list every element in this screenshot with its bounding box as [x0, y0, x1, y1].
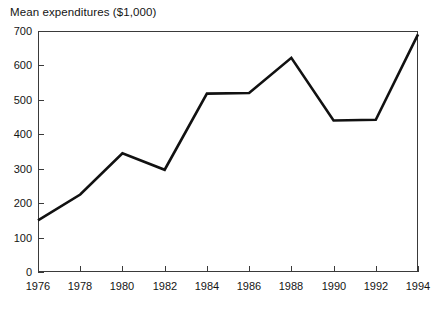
x-axis-tick-label: 1988	[271, 281, 311, 292]
x-axis-tick-label: 1982	[145, 281, 185, 292]
y-axis-tick-label: 600	[2, 60, 32, 71]
y-axis-tick-mark	[38, 272, 44, 273]
chart-axis-title: Mean expenditures ($1,000)	[10, 6, 156, 18]
x-axis-tick-mark	[80, 266, 81, 272]
y-axis-tick-mark	[38, 134, 44, 135]
y-axis-tick-mark	[38, 31, 44, 32]
y-axis-tick-label: 0	[2, 267, 32, 278]
x-axis-tick-mark	[165, 266, 166, 272]
y-axis-tick-mark	[38, 203, 44, 204]
x-axis-tick-mark	[249, 266, 250, 272]
x-axis-tick-label: 1976	[18, 281, 58, 292]
x-axis-tick-mark	[122, 266, 123, 272]
y-axis-tick-label: 500	[2, 95, 32, 106]
y-axis-tick-label: 100	[2, 233, 32, 244]
x-axis-tick-label: 1978	[60, 281, 100, 292]
x-axis-tick-mark	[38, 266, 39, 272]
x-axis-tick-label: 1990	[314, 281, 354, 292]
x-axis-tick-mark	[334, 266, 335, 272]
y-axis-tick-mark	[38, 238, 44, 239]
x-axis-tick-mark	[207, 266, 208, 272]
x-axis-tick-label: 1994	[398, 281, 438, 292]
plot-area-frame	[38, 31, 418, 272]
y-axis-tick-label: 200	[2, 198, 32, 209]
x-axis-tick-mark	[376, 266, 377, 272]
x-axis-tick-label: 1992	[356, 281, 396, 292]
y-axis-tick-label: 300	[2, 164, 32, 175]
y-axis-tick-mark	[38, 100, 44, 101]
y-axis-tick-label: 700	[2, 26, 32, 37]
x-axis-tick-mark	[291, 266, 292, 272]
y-axis-tick-label: 400	[2, 129, 32, 140]
x-axis-tick-mark	[418, 266, 419, 272]
x-axis-tick-label: 1986	[229, 281, 269, 292]
chart-figure: Mean expenditures ($1,000) 0100200300400…	[0, 0, 443, 312]
y-axis-tick-mark	[38, 169, 44, 170]
y-axis-tick-mark	[38, 65, 44, 66]
x-axis-tick-label: 1984	[187, 281, 227, 292]
x-axis-tick-label: 1980	[102, 281, 142, 292]
